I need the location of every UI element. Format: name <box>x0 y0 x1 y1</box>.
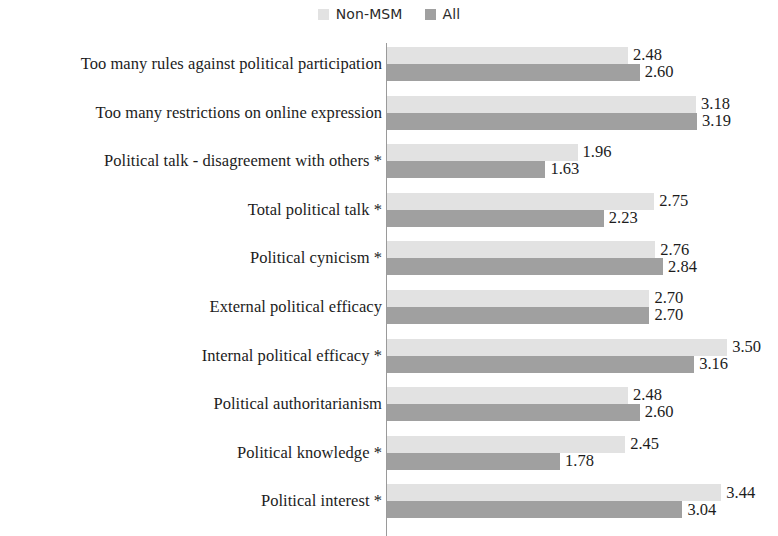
bar-row: 2.60 <box>387 404 674 421</box>
bar-group: Political authoritarianism2.482.60 <box>0 387 778 421</box>
bar-value-label: 2.75 <box>659 193 688 210</box>
bar-group: Political interest *3.443.04 <box>0 484 778 518</box>
category-label: Political cynicism * <box>250 248 382 268</box>
bar-all <box>387 210 604 227</box>
bar-non-msm <box>387 47 628 64</box>
chart-legend: Non-MSM All <box>0 3 778 25</box>
bar-row: 3.04 <box>387 501 716 518</box>
bar-group: Too many restrictions on online expressi… <box>0 96 778 130</box>
legend-label-all: All <box>443 6 461 22</box>
bar-row: 2.48 <box>387 387 662 404</box>
bar-group: Political talk - disagreement with other… <box>0 144 778 178</box>
bar-all <box>387 161 545 178</box>
bar-value-label: 3.18 <box>701 96 730 113</box>
bar-value-label: 3.44 <box>726 485 755 502</box>
category-label: Political knowledge * <box>237 443 382 463</box>
bar-row: 3.19 <box>387 113 731 130</box>
bar-all <box>387 356 694 373</box>
plot-area: Too many rules against political partici… <box>0 31 778 536</box>
bar-non-msm <box>387 290 649 307</box>
bar-row: 2.48 <box>387 47 662 64</box>
group-bars: 2.482.60 <box>387 47 778 81</box>
bar-non-msm <box>387 96 696 113</box>
group-bars: 3.183.19 <box>387 96 778 130</box>
bar-row: 2.45 <box>387 436 659 453</box>
category-label: Too many restrictions on online expressi… <box>96 103 382 123</box>
category-label: Political authoritarianism <box>213 394 382 414</box>
bar-all <box>387 501 682 518</box>
bar-row: 2.70 <box>387 290 683 307</box>
bar-value-label: 1.63 <box>550 161 579 178</box>
bar-value-label: 1.96 <box>583 144 612 161</box>
bar-row: 3.18 <box>387 96 730 113</box>
bar-row: 1.78 <box>387 453 594 470</box>
category-label: Internal political efficacy * <box>202 346 382 366</box>
group-bars: 2.451.78 <box>387 436 778 470</box>
bar-value-label: 3.04 <box>687 502 716 519</box>
category-label: External political efficacy <box>210 297 382 317</box>
bar-value-label: 2.23 <box>609 210 638 227</box>
group-bars: 3.443.04 <box>387 484 778 518</box>
bar-non-msm <box>387 144 578 161</box>
group-bars: 1.961.63 <box>387 144 778 178</box>
bar-non-msm <box>387 339 727 356</box>
bar-row: 2.23 <box>387 210 638 227</box>
group-bars: 2.702.70 <box>387 290 778 324</box>
bar-all <box>387 258 663 275</box>
group-bars: 2.762.84 <box>387 241 778 275</box>
category-label: Total political talk * <box>248 200 382 220</box>
group-bars: 3.503.16 <box>387 339 778 373</box>
bar-value-label: 1.78 <box>565 453 594 470</box>
category-label: Political talk - disagreement with other… <box>104 151 382 171</box>
bar-row: 2.60 <box>387 64 674 81</box>
bar-value-label: 2.60 <box>645 64 674 81</box>
bar-row: 2.70 <box>387 307 683 324</box>
bar-non-msm <box>387 484 721 501</box>
bar-row: 3.16 <box>387 356 728 373</box>
bar-value-label: 2.76 <box>660 242 689 259</box>
bar-all <box>387 113 697 130</box>
group-bars: 2.482.60 <box>387 387 778 421</box>
legend-item-all: All <box>425 6 461 22</box>
bar-row: 1.63 <box>387 161 579 178</box>
bar-chart: Non-MSM All Too many rules against polit… <box>0 0 778 536</box>
bar-value-label: 2.84 <box>668 259 697 276</box>
legend-label-non-msm: Non-MSM <box>336 6 403 22</box>
category-label: Political interest * <box>261 491 382 511</box>
bar-all <box>387 307 649 324</box>
legend-item-non-msm: Non-MSM <box>318 6 403 22</box>
category-label: Too many rules against political partici… <box>81 54 382 74</box>
group-bars: 2.752.23 <box>387 193 778 227</box>
bar-value-label: 3.50 <box>732 339 761 356</box>
legend-swatch-all <box>425 9 436 20</box>
bar-all <box>387 453 560 470</box>
bar-group: Political knowledge *2.451.78 <box>0 436 778 470</box>
bar-all <box>387 404 640 421</box>
legend-swatch-non-msm <box>318 9 329 20</box>
bar-row: 3.44 <box>387 484 755 501</box>
bar-row: 2.84 <box>387 258 697 275</box>
bar-value-label: 3.19 <box>702 113 731 130</box>
bar-value-label: 2.45 <box>630 436 659 453</box>
bar-group: Internal political efficacy *3.503.16 <box>0 339 778 373</box>
bar-group: Too many rules against political partici… <box>0 47 778 81</box>
bar-value-label: 2.60 <box>645 404 674 421</box>
bar-non-msm <box>387 241 655 258</box>
bar-non-msm <box>387 387 628 404</box>
bar-value-label: 3.16 <box>699 356 728 373</box>
bar-row: 2.75 <box>387 193 688 210</box>
bar-group: External political efficacy2.702.70 <box>0 290 778 324</box>
bar-group: Total political talk *2.752.23 <box>0 193 778 227</box>
bar-all <box>387 64 640 81</box>
bar-row: 2.76 <box>387 241 689 258</box>
bar-group: Political cynicism *2.762.84 <box>0 241 778 275</box>
bar-value-label: 2.70 <box>654 307 683 324</box>
